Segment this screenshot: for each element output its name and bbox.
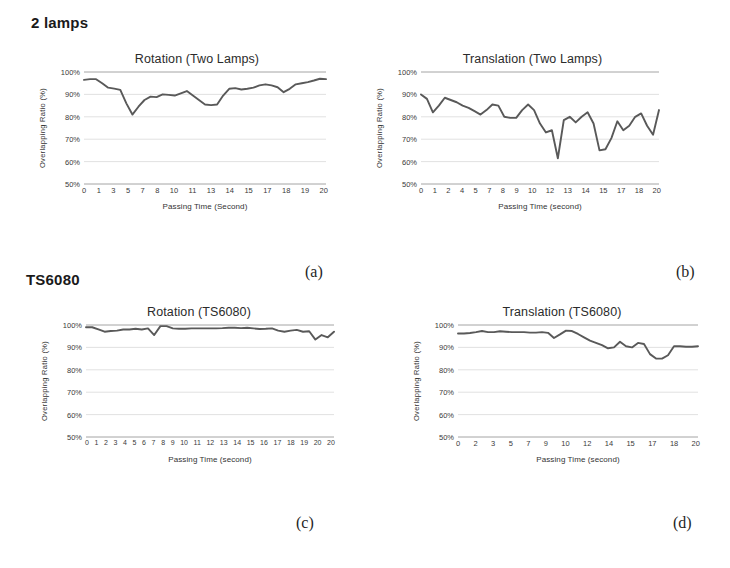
line-chart-svg bbox=[458, 325, 698, 437]
y-axis-label: Overlapping Ratio (%) bbox=[38, 72, 47, 184]
x-tick-label: 17 bbox=[617, 186, 625, 195]
x-tick-label: 14 bbox=[605, 439, 613, 448]
y-tick-label: 50% bbox=[67, 433, 82, 442]
plot-area bbox=[86, 325, 334, 437]
y-tick-label: 100% bbox=[398, 68, 417, 77]
x-tick-label: 10 bbox=[528, 186, 536, 195]
y-tick-label: 90% bbox=[67, 343, 82, 352]
x-tick-label: 17 bbox=[648, 439, 656, 448]
row-heading-two-lamps: 2 lamps bbox=[31, 14, 88, 31]
chart-panel-translation-two-lamps: Translation (Two Lamps) Overlapping Rati… bbox=[375, 52, 680, 252]
subfigure-caption-a: (a) bbox=[305, 263, 323, 281]
x-tick-label: 3 bbox=[491, 439, 495, 448]
y-tick-label: 80% bbox=[67, 365, 82, 374]
x-tick-label: 12 bbox=[546, 186, 554, 195]
x-tick-label: 19 bbox=[301, 186, 309, 195]
figure-root: 2 lamps TS6080 (a) (b) (c) (d) Rotation … bbox=[0, 0, 730, 568]
y-tick-label: 90% bbox=[439, 343, 454, 352]
y-tick-labels: 100%90%80%70%60%50% bbox=[48, 72, 80, 184]
x-tick-label: 6 bbox=[142, 439, 146, 446]
x-tick-label: 13 bbox=[207, 186, 215, 195]
x-tick-label: 15 bbox=[247, 439, 255, 446]
x-tick-label: 15 bbox=[599, 186, 607, 195]
x-tick-label: 4 bbox=[123, 439, 127, 446]
x-tick-labels: 013578101113141517181920 bbox=[82, 186, 328, 200]
y-tick-labels: 100%90%80%70%60%50% bbox=[422, 325, 454, 437]
x-tick-label: 10 bbox=[180, 439, 188, 446]
x-tick-label: 14 bbox=[233, 439, 241, 446]
x-tick-label: 3 bbox=[114, 439, 118, 446]
y-tick-labels: 100%90%80%70%60%50% bbox=[50, 325, 82, 437]
y-tick-label: 50% bbox=[65, 180, 80, 189]
x-tick-label: 14 bbox=[581, 186, 589, 195]
data-series-line bbox=[86, 326, 334, 339]
x-tick-label: 15 bbox=[244, 186, 252, 195]
x-tick-label: 14 bbox=[226, 186, 234, 195]
x-tick-label: 18 bbox=[287, 439, 295, 446]
y-tick-label: 100% bbox=[435, 321, 454, 330]
y-tick-label: 70% bbox=[402, 135, 417, 144]
x-tick-label: 8 bbox=[501, 186, 505, 195]
chart-title: Translation (Two Lamps) bbox=[375, 52, 680, 66]
x-tick-label: 8 bbox=[155, 186, 159, 195]
x-tick-label: 17 bbox=[273, 439, 281, 446]
y-tick-label: 70% bbox=[67, 388, 82, 397]
chart-title: Rotation (Two Lamps) bbox=[38, 52, 338, 66]
x-tick-label: 20 bbox=[692, 439, 700, 448]
row-heading-ts6080: TS6080 bbox=[26, 271, 80, 288]
y-tick-label: 50% bbox=[402, 180, 417, 189]
x-tick-label: 13 bbox=[564, 186, 572, 195]
x-tick-label: 9 bbox=[514, 186, 518, 195]
subfigure-caption-b: (b) bbox=[676, 263, 695, 281]
y-axis-label: Overlapping Ratio (%) bbox=[375, 72, 384, 184]
x-tick-label: 18 bbox=[282, 186, 290, 195]
y-tick-label: 70% bbox=[65, 135, 80, 144]
y-tick-label: 60% bbox=[67, 410, 82, 419]
x-tick-label: 12 bbox=[206, 439, 214, 446]
x-tick-labels: 0123456789101112131415161718192020 bbox=[85, 439, 335, 453]
x-tick-labels: 02357910121415171820 bbox=[456, 439, 700, 453]
data-series-line bbox=[458, 331, 698, 359]
x-tick-label: 2 bbox=[474, 439, 478, 448]
plot-area bbox=[421, 72, 659, 184]
x-tick-label: 9 bbox=[171, 439, 175, 446]
x-tick-label: 16 bbox=[260, 439, 268, 446]
x-tick-label: 19 bbox=[300, 439, 308, 446]
x-tick-labels: 012457891012131415171820 bbox=[419, 186, 661, 200]
x-tick-label: 0 bbox=[419, 186, 423, 195]
y-tick-label: 80% bbox=[65, 112, 80, 121]
line-chart-svg bbox=[86, 325, 334, 437]
y-tick-label: 100% bbox=[61, 68, 80, 77]
x-tick-label: 10 bbox=[561, 439, 569, 448]
chart-panel-rotation-ts6080: Rotation (TS6080) Overlapping Ratio (%) … bbox=[40, 305, 350, 510]
plot-area bbox=[84, 72, 326, 184]
y-tick-label: 60% bbox=[439, 410, 454, 419]
x-axis-label: Passing Time (second) bbox=[458, 455, 698, 464]
x-tick-label: 2 bbox=[446, 186, 450, 195]
x-axis-label: Passing Time (second) bbox=[421, 202, 659, 211]
x-tick-label: 20 bbox=[327, 439, 335, 446]
y-tick-label: 100% bbox=[63, 321, 82, 330]
y-tick-label: 60% bbox=[402, 157, 417, 166]
x-tick-label: 11 bbox=[194, 439, 201, 446]
x-tick-label: 0 bbox=[456, 439, 460, 448]
x-tick-label: 8 bbox=[161, 439, 165, 446]
y-axis-label: Overlapping Ratio (%) bbox=[412, 325, 421, 437]
x-tick-label: 15 bbox=[626, 439, 634, 448]
y-tick-label: 90% bbox=[402, 90, 417, 99]
x-tick-label: 18 bbox=[670, 439, 678, 448]
x-tick-label: 5 bbox=[126, 186, 130, 195]
y-tick-label: 80% bbox=[439, 365, 454, 374]
y-tick-label: 90% bbox=[65, 90, 80, 99]
subfigure-caption-d: (d) bbox=[673, 514, 692, 532]
plot-area bbox=[458, 325, 698, 437]
y-tick-label: 80% bbox=[402, 112, 417, 121]
y-tick-label: 70% bbox=[439, 388, 454, 397]
y-tick-label: 50% bbox=[439, 433, 454, 442]
x-tick-label: 20 bbox=[653, 186, 661, 195]
y-tick-label: 60% bbox=[65, 157, 80, 166]
subfigure-caption-c: (c) bbox=[296, 514, 314, 532]
x-tick-label: 0 bbox=[82, 186, 86, 195]
x-tick-label: 7 bbox=[526, 439, 530, 448]
x-tick-label: 5 bbox=[474, 186, 478, 195]
